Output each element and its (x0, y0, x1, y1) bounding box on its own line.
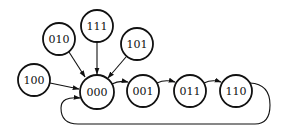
edge-100-to-000 (50, 83, 79, 89)
node-001: 001 (127, 75, 159, 107)
edge-000-to-001 (112, 81, 128, 84)
node-100: 100 (18, 64, 50, 96)
node-000-label: 000 (87, 86, 108, 99)
node-111: 111 (81, 10, 113, 42)
node-110: 110 (220, 75, 252, 107)
node-001-label: 001 (133, 85, 154, 98)
node-011: 011 (174, 75, 206, 107)
node-010: 010 (43, 23, 75, 55)
edge-010-to-000 (69, 52, 85, 77)
node-110-label: 110 (226, 85, 247, 98)
node-100-label: 100 (24, 74, 45, 87)
state-diagram: 100 010 111 101 000 001 011 110 (0, 0, 283, 134)
node-101: 101 (121, 28, 153, 60)
node-000: 000 (80, 75, 114, 109)
node-010-label: 010 (49, 33, 70, 46)
edge-011-to-110 (204, 81, 221, 83)
node-101-label: 101 (127, 38, 148, 51)
edge-101-to-000 (108, 57, 126, 78)
node-011-label: 011 (180, 85, 201, 98)
edge-001-to-011 (157, 81, 175, 83)
node-111-label: 111 (87, 20, 108, 33)
